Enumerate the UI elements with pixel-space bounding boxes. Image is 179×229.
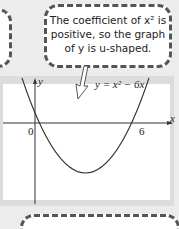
equation-label: y = x² − 6x [94,78,144,90]
root-label: 6 [139,125,145,137]
parabola-curve [22,78,149,173]
pointer-arrow-icon [76,66,88,99]
y-axis-arrow-icon [33,78,37,84]
y-axis-label: y [37,75,43,87]
bottom-callout-bubble [20,214,179,229]
x-axis-label: x [169,112,175,124]
origin-label: 0 [28,125,34,137]
graph-svg: y x 0 6 y = x² − 6x [0,0,179,229]
